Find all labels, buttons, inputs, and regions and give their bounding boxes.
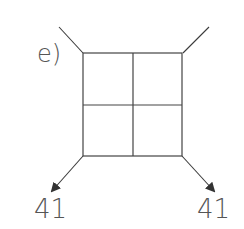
output-label-left: 41 — [34, 194, 67, 224]
output-label-right: 41 — [197, 194, 230, 224]
diagram-canvas: e) 41 41 — [0, 0, 244, 229]
arrow-bottom-right — [182, 156, 214, 191]
diagram-label: e) — [37, 40, 61, 68]
top-right-line — [183, 27, 209, 53]
arrow-bottom-left — [52, 156, 83, 191]
top-left-line — [59, 27, 83, 53]
